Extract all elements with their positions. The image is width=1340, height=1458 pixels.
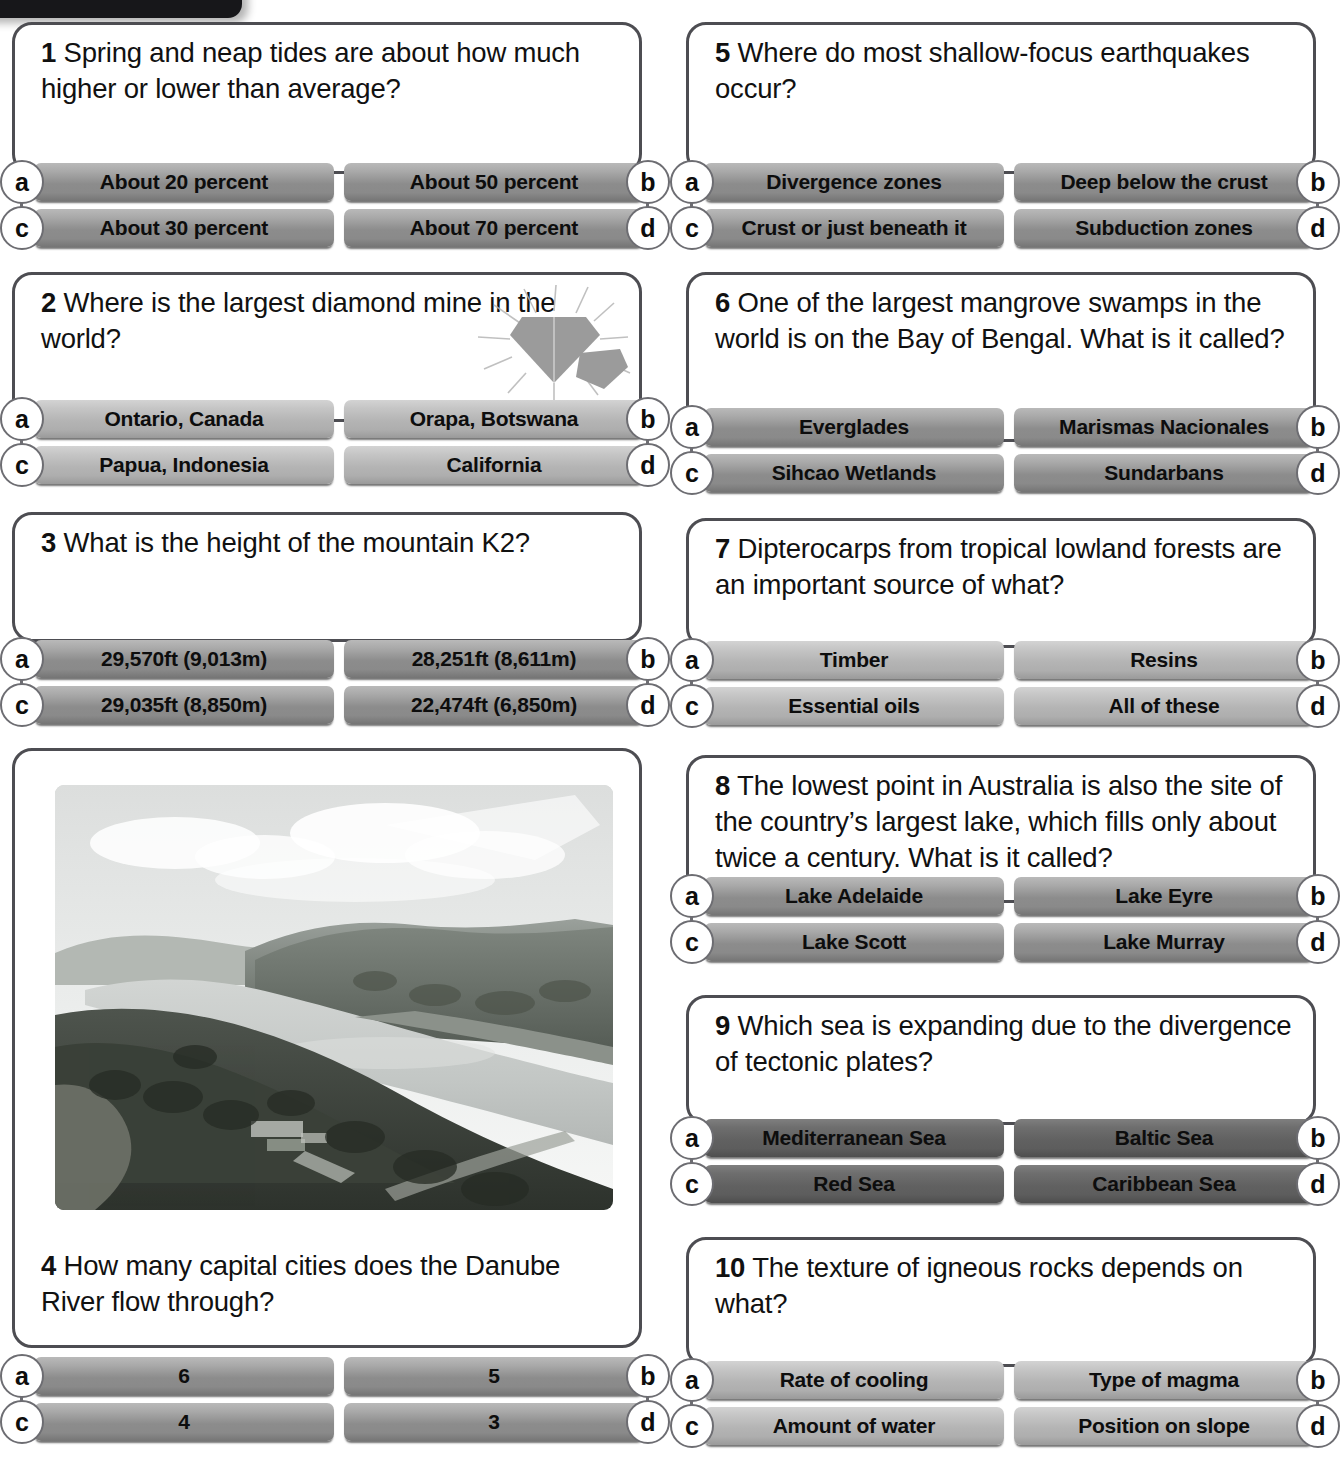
question-text-6: 6 One of the largest mangrove swamps in … (715, 285, 1295, 357)
answer-option-4-d[interactable]: 3 (344, 1403, 644, 1441)
answer-option-3-b[interactable]: 28,251ft (8,611m) (344, 640, 644, 678)
answer-option-1-c[interactable]: About 30 percent (34, 209, 334, 247)
answer-letter-badge-b[interactable]: b (626, 1354, 670, 1398)
answer-option-10-d[interactable]: Position on slope (1014, 1407, 1314, 1445)
answer-option-6-d[interactable]: Sundarbans (1014, 454, 1314, 492)
answer-option-8-b[interactable]: Lake Eyre (1014, 877, 1314, 915)
answer-letter-badge-c[interactable]: c (0, 443, 44, 487)
answer-option-9-c[interactable]: Red Sea (704, 1165, 1004, 1203)
answer-label: Sundarbans (1104, 461, 1223, 485)
answer-label: Divergence zones (766, 170, 941, 194)
answer-letter-badge-c[interactable]: c (0, 206, 44, 250)
answer-letter-badge-c[interactable]: c (670, 920, 714, 964)
answer-letter-badge-c[interactable]: c (0, 1400, 44, 1444)
question-number-4: 4 (41, 1250, 56, 1281)
answer-row: Ontario, CanadaaOrapa, Botswanab (0, 400, 670, 438)
answer-option-7-a[interactable]: Timber (704, 641, 1004, 679)
answer-letter-badge-b[interactable]: b (1296, 405, 1340, 449)
answer-letter-badge-a[interactable]: a (0, 160, 44, 204)
answer-option-4-b[interactable]: 5 (344, 1357, 644, 1395)
answer-option-5-d[interactable]: Subduction zones (1014, 209, 1314, 247)
answer-option-8-a[interactable]: Lake Adelaide (704, 877, 1004, 915)
answer-letter-badge-a[interactable]: a (0, 637, 44, 681)
answer-option-6-c[interactable]: Sihcao Wetlands (704, 454, 1004, 492)
answer-option-5-b[interactable]: Deep below the crust (1014, 163, 1314, 201)
answer-letter-badge-a[interactable]: a (670, 160, 714, 204)
answer-label: Amount of water (773, 1414, 936, 1438)
answer-letter-badge-b[interactable]: b (626, 160, 670, 204)
answer-option-3-c[interactable]: 29,035ft (8,850m) (34, 686, 334, 724)
answer-letter-badge-c[interactable]: c (670, 1162, 714, 1206)
answer-label: Mediterranean Sea (762, 1126, 945, 1150)
answer-letter-badge-b[interactable]: b (1296, 1116, 1340, 1160)
answer-letter-badge-d[interactable]: d (1296, 684, 1340, 728)
answer-option-7-b[interactable]: Resins (1014, 641, 1314, 679)
answer-letter-badge-a[interactable]: a (670, 1116, 714, 1160)
answer-letter-badge-d[interactable]: d (1296, 1404, 1340, 1448)
answer-option-2-a[interactable]: Ontario, Canada (34, 400, 334, 438)
answer-option-10-b[interactable]: Type of magma (1014, 1361, 1314, 1399)
answer-letter-badge-d[interactable]: d (1296, 920, 1340, 964)
answer-option-1-a[interactable]: About 20 percent (34, 163, 334, 201)
answer-option-10-c[interactable]: Amount of water (704, 1407, 1004, 1445)
answer-letter-badge-a[interactable]: a (0, 1354, 44, 1398)
answer-option-7-c[interactable]: Essential oils (704, 687, 1004, 725)
answer-option-6-a[interactable]: Everglades (704, 408, 1004, 446)
answer-letter-badge-c[interactable]: c (670, 451, 714, 495)
answer-letter-badge-b[interactable]: b (626, 397, 670, 441)
answer-option-10-a[interactable]: Rate of cooling (704, 1361, 1004, 1399)
answer-option-3-a[interactable]: 29,570ft (9,013m) (34, 640, 334, 678)
answer-letter-badge-b[interactable]: b (1296, 638, 1340, 682)
question-text-4: 4 How many capital cities does the Danub… (41, 1248, 621, 1320)
answer-letter-badge-d[interactable]: d (626, 1400, 670, 1444)
answer-option-2-d[interactable]: California (344, 446, 644, 484)
answer-letter-badge-b[interactable]: b (626, 637, 670, 681)
answer-label: Rate of cooling (780, 1368, 929, 1392)
answer-option-2-b[interactable]: Orapa, Botswana (344, 400, 644, 438)
question-text-1: 1 Spring and neap tides are about how mu… (41, 35, 621, 107)
answer-option-4-c[interactable]: 4 (34, 1403, 334, 1441)
answer-option-1-b[interactable]: About 50 percent (344, 163, 644, 201)
answer-letter-badge-a[interactable]: a (670, 874, 714, 918)
answer-letter-badge-d[interactable]: d (1296, 1162, 1340, 1206)
answer-letter-badge-d[interactable]: d (1296, 451, 1340, 495)
answer-label: Lake Adelaide (785, 884, 923, 908)
answer-option-5-c[interactable]: Crust or just beneath it (704, 209, 1004, 247)
answer-option-3-d[interactable]: 22,474ft (6,850m) (344, 686, 644, 724)
answer-letter-badge-a[interactable]: a (670, 405, 714, 449)
answer-group-9: Mediterranean SeaaBaltic SeabRed SeacCar… (670, 1119, 1338, 1203)
question-number-3: 3 (41, 527, 56, 558)
answer-letter-badge-d[interactable]: d (626, 443, 670, 487)
answer-letter-badge-d[interactable]: d (626, 206, 670, 250)
answer-option-1-d[interactable]: About 70 percent (344, 209, 644, 247)
answer-option-9-d[interactable]: Caribbean Sea (1014, 1165, 1314, 1203)
answer-letter-badge-a[interactable]: a (670, 638, 714, 682)
answer-letter-badge-c[interactable]: c (0, 683, 44, 727)
answer-letter-badge-b[interactable]: b (1296, 874, 1340, 918)
answer-option-4-a[interactable]: 6 (34, 1357, 334, 1395)
answer-letter-badge-c[interactable]: c (670, 1404, 714, 1448)
answer-letter-badge-a[interactable]: a (670, 1358, 714, 1402)
answer-option-6-b[interactable]: Marismas Nacionales (1014, 408, 1314, 446)
question-body-5: Where do most shallow-focus earthquakes … (715, 37, 1249, 104)
answer-option-7-d[interactable]: All of these (1014, 687, 1314, 725)
answer-letter-badge-c[interactable]: c (670, 206, 714, 250)
answer-label: 28,251ft (8,611m) (412, 647, 577, 671)
answer-row: Sihcao WetlandscSundarbansd (670, 454, 1338, 492)
answer-option-5-a[interactable]: Divergence zones (704, 163, 1004, 201)
answer-letter-badge-a[interactable]: a (0, 397, 44, 441)
answer-letter-badge-b[interactable]: b (1296, 160, 1340, 204)
answer-option-8-d[interactable]: Lake Murray (1014, 923, 1314, 961)
answer-option-9-a[interactable]: Mediterranean Sea (704, 1119, 1004, 1157)
answer-label: California (447, 453, 542, 477)
answer-letter-badge-d[interactable]: d (626, 683, 670, 727)
answer-letter-badge-d[interactable]: d (1296, 206, 1340, 250)
answer-option-9-b[interactable]: Baltic Sea (1014, 1119, 1314, 1157)
answer-label: About 20 percent (100, 170, 268, 194)
answer-option-8-c[interactable]: Lake Scott (704, 923, 1004, 961)
answer-letter-badge-c[interactable]: c (670, 684, 714, 728)
river-valley-photo (55, 785, 613, 1210)
answer-option-2-c[interactable]: Papua, Indonesia (34, 446, 334, 484)
answer-letter-badge-b[interactable]: b (1296, 1358, 1340, 1402)
question-card-1: 1 Spring and neap tides are about how mu… (12, 22, 642, 174)
